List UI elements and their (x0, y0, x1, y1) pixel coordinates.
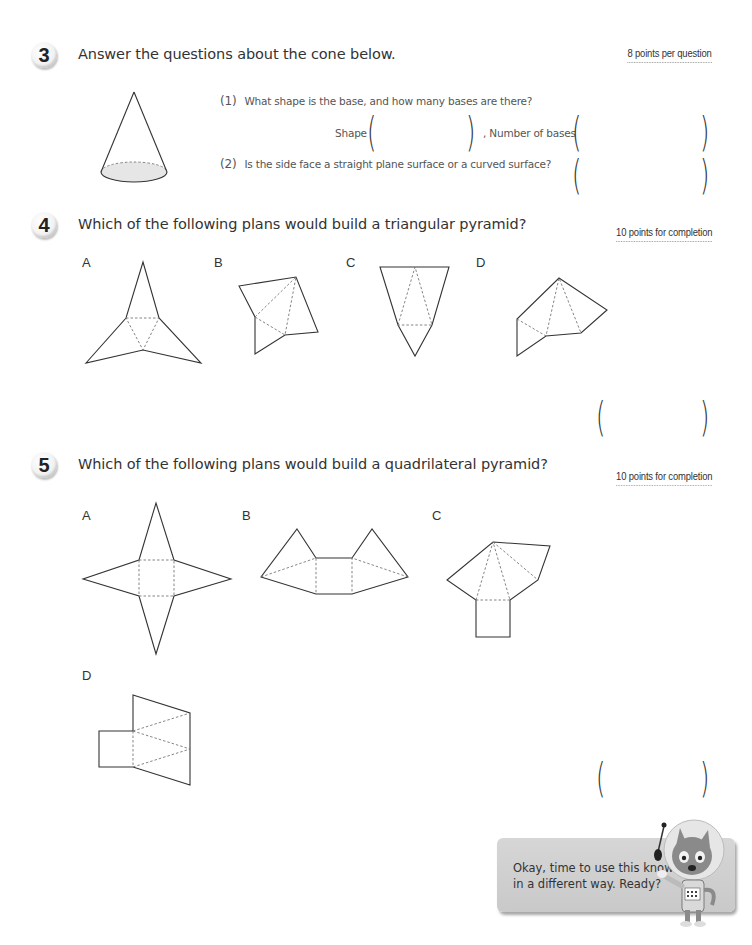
quadrilateral-net-d-icon[interactable] (0, 0, 752, 945)
astronaut-cat-icon (650, 810, 750, 935)
q5-answer-close-paren[interactable]: ) (700, 758, 709, 798)
q5-answer-open-paren[interactable]: ( (596, 758, 605, 798)
